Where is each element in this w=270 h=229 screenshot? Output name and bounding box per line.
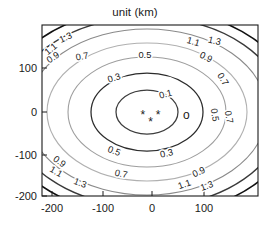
x-tick-label-0: -200 bbox=[41, 202, 63, 214]
contour-label-0.9-9: 0.9 bbox=[198, 50, 214, 65]
asterisk-marker-2: * bbox=[156, 108, 161, 122]
circle-marker-1: o bbox=[183, 108, 190, 122]
contour-label-0.5-11: 0.5 bbox=[209, 108, 221, 122]
contour-label-0.3-14: 0.3 bbox=[159, 147, 174, 159]
contour-label-1.3-18: 1.3 bbox=[72, 176, 88, 190]
y-tick-label-3: -200 bbox=[15, 190, 37, 202]
y-tick-label-1: 0 bbox=[31, 106, 37, 118]
markers-group: ***o bbox=[141, 108, 191, 130]
contour-label-0.3-5: 0.3 bbox=[106, 71, 121, 85]
y-tick-label-0: 100 bbox=[19, 62, 37, 74]
contour-label-0.1-6: 0.1 bbox=[158, 88, 173, 101]
contour-label-0.7-10: 0.7 bbox=[215, 71, 230, 87]
contour-label-1.3-8: 1.3 bbox=[207, 34, 222, 47]
x-tick-label-3: 100 bbox=[195, 202, 213, 214]
contour-label-1.1-7: 1.1 bbox=[186, 35, 201, 48]
x-tick-label-2: 0 bbox=[149, 202, 155, 214]
x-tick-label-1: -100 bbox=[92, 202, 114, 214]
asterisk-marker-1: * bbox=[141, 108, 146, 122]
contour-figure: unit (km) bbox=[0, 0, 270, 229]
contour-labels-group: 1.31.31.11.10.90.90.70.70.50.50.30.30.10… bbox=[43, 30, 235, 193]
contour-plot-canvas: -200 -100 0 100 100 0 -100 -200 1.31.31.… bbox=[0, 0, 270, 229]
asterisk-marker-3: * bbox=[148, 115, 153, 129]
y-tick-label-2: -100 bbox=[15, 149, 37, 161]
contour-label-0.7-3: 0.7 bbox=[75, 51, 89, 63]
contour-label-0.9-19: 0.9 bbox=[191, 165, 207, 180]
contour-label-0.5-4: 0.5 bbox=[138, 50, 151, 60]
